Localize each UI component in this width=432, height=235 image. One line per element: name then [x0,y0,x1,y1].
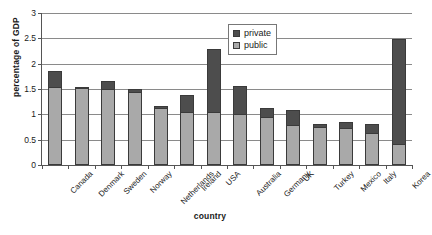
x-axis-tick [174,165,175,169]
bar-segment-public [75,88,89,165]
bar-group [180,13,194,165]
bar-group [365,13,379,165]
y-axis-tick-label: 1 [31,110,36,119]
bar-segment-public [313,127,327,166]
legend-item-label: private [244,29,271,38]
gridline [42,140,412,141]
y-axis-tick [38,140,42,141]
bar-segment-public [180,112,194,165]
gridline [42,38,412,39]
bar-group [154,13,168,165]
bar-group [128,13,142,165]
chart-legend: privatepublic [228,24,277,55]
x-axis-tick-label: Italy [383,170,399,186]
gridline [42,89,412,90]
x-axis-tick-label: Korea [411,170,432,191]
y-axis-tick-label: 3 [31,9,36,18]
bar-segment-public [154,108,168,165]
public-swatch-icon [233,42,240,49]
x-axis-tick [121,165,122,169]
bar-group [313,13,327,165]
bar-segment-private [101,81,115,90]
bar-segment-private [260,108,274,118]
bar-segment-public [233,114,247,165]
bar-segment-public [48,87,62,165]
y-axis-tick [38,38,42,39]
bar-group [48,13,62,165]
x-axis-tick [333,165,334,169]
x-axis-tick [386,165,387,169]
x-axis-tick-label: USA [225,170,242,187]
legend-item: public [233,39,271,51]
gridline [42,64,412,65]
bar-segment-public [207,112,221,165]
x-axis-tick-label: Australia [255,170,283,198]
x-axis-tick-label: Denmark [97,170,126,199]
bar-segment-private [75,87,89,89]
bar-segment-private [339,122,353,129]
bar-segment-private [392,39,406,145]
plot-area: 00.511.522.53 [41,13,412,166]
bar-group [339,13,353,165]
x-axis-tick [280,165,281,169]
bar-segment-private [154,106,168,109]
bar-segment-public [392,144,406,165]
y-axis-title: percentage of GDP [11,0,21,117]
y-axis-tick [38,64,42,65]
bar-group [101,13,115,165]
bar-segment-public [286,125,300,165]
y-axis-tick-label: 1.5 [24,85,36,94]
legend-item-label: public [244,41,268,50]
bar-segment-private [286,110,300,126]
bar-segment-private [128,89,142,93]
x-axis-tick [412,165,413,169]
y-axis-tick-label: 0 [31,161,36,170]
x-axis-tick [68,165,69,169]
bar-segment-private [180,95,194,113]
x-axis-tick-label: Turkey [333,170,356,193]
bar-group [75,13,89,165]
x-axis-tick-label: Sweden [123,170,149,196]
bar-segment-public [260,117,274,165]
x-axis-tick [253,165,254,169]
x-axis-tick [95,165,96,169]
bar-group [207,13,221,165]
gridline [42,114,412,115]
bar-segment-private [207,49,221,113]
private-swatch-icon [233,30,240,37]
bar-segment-private [365,124,379,134]
bar-group [392,13,406,165]
bar-segment-private [48,71,62,89]
y-axis-tick-label: 0.5 [24,135,36,144]
y-axis-tick [38,114,42,115]
x-axis-tick [42,165,43,169]
bar-segment-private [233,86,247,114]
x-axis-tick-label: Norway [148,170,173,195]
x-axis-tick [227,165,228,169]
bar-segment-private [313,124,327,127]
gridline [42,13,412,14]
bar-segment-public [101,89,115,165]
bar-segment-public [128,92,142,165]
x-axis-tick-label: Mexico [359,170,383,194]
bar-group [286,13,300,165]
y-axis-tick [38,89,42,90]
legend-item: private [233,27,271,39]
x-axis-tick [201,165,202,169]
y-axis-tick-label: 2 [31,59,36,68]
bar-segment-public [339,128,353,165]
bar-segment-public [365,133,379,165]
x-axis-tick-label: Canada [69,170,94,195]
x-axis-tick [359,165,360,169]
y-axis-tick [38,13,42,14]
y-axis-tick-label: 2.5 [24,34,36,43]
x-axis-tick [306,165,307,169]
x-axis-tick [148,165,149,169]
x-axis-title: country [0,211,420,221]
